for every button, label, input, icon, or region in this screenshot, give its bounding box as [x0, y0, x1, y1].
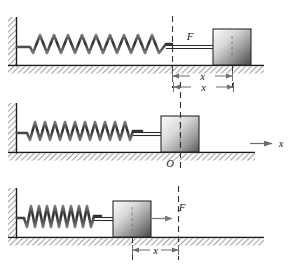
dimension-label-x-panel3: x: [152, 245, 158, 256]
dimension-label-x-panel2: x: [200, 82, 206, 93]
block-panel3: [113, 201, 151, 237]
physics-figure: x F O: [0, 0, 289, 266]
dimension-label-x-panel1: x: [199, 71, 205, 82]
block-panel1: [213, 29, 251, 65]
ground-panel3: [8, 238, 264, 246]
x-axis-label: x: [278, 138, 284, 149]
wall-panel2: [8, 103, 17, 157]
ground-panel1: [8, 66, 264, 74]
ground-panel2: [8, 153, 255, 161]
spring-mass-diagram: x F O: [0, 0, 289, 266]
wall-panel3: [8, 188, 17, 242]
force-label-panel1: F: [186, 30, 194, 42]
origin-label: O: [166, 158, 174, 169]
wall-panel1: [8, 17, 17, 70]
